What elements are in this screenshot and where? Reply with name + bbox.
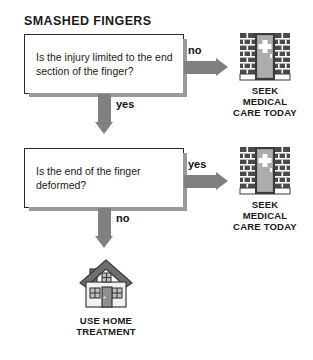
arrow-head — [95, 236, 113, 248]
page-title: SMASHED FINGERS — [24, 14, 152, 28]
arrow-head — [95, 122, 113, 134]
arrow-shaft — [98, 94, 111, 122]
decision-box-question-2: Is the end of the finger deformed? — [24, 148, 184, 208]
outcome-caption-1: SEEK MEDICAL CARE TODAY — [228, 85, 302, 118]
arrow-head — [216, 172, 228, 190]
arrow-shaft — [184, 175, 216, 188]
arrow-shaft — [184, 61, 216, 74]
arrow-shaft — [98, 208, 111, 236]
arrow-head — [216, 58, 228, 76]
decision-box-question-1: Is the injury limited to the end section… — [24, 34, 184, 94]
decision-text-question-1: Is the injury limited to the end section… — [36, 51, 183, 78]
hospital-building-icon — [228, 146, 302, 196]
edge-label-q1-yes: yes — [116, 98, 134, 110]
arrow-q2-yes-right — [184, 175, 228, 188]
outcome-use-home-treatment: USE HOME TREATMENT — [56, 256, 156, 337]
edge-label-q2-no: no — [116, 212, 129, 224]
outcome-caption-2: SEEK MEDICAL CARE TODAY — [228, 199, 302, 232]
arrow-q1-no-right — [184, 61, 228, 74]
arrow-q2-no-down — [98, 208, 111, 248]
outcome-seek-medical-care-1: SEEK MEDICAL CARE TODAY — [228, 32, 302, 118]
edge-label-q2-yes: yes — [188, 158, 206, 170]
house-icon — [56, 256, 156, 312]
outcome-caption-3: USE HOME TREATMENT — [56, 315, 156, 337]
outcome-seek-medical-care-2: SEEK MEDICAL CARE TODAY — [228, 146, 302, 232]
smashed-fingers-flowchart: SMASHED FINGERS Is the injury limited to… — [0, 0, 313, 360]
edge-label-q1-no: no — [188, 44, 201, 56]
arrow-q1-yes-down — [98, 94, 111, 134]
decision-text-question-2: Is the end of the finger deformed? — [36, 165, 183, 192]
hospital-building-icon — [228, 32, 302, 82]
